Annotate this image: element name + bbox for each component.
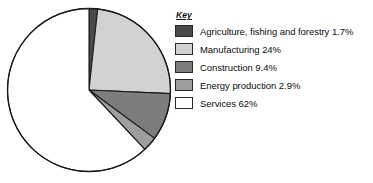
- legend-item-label: Construction 9.4%: [200, 62, 277, 73]
- white-swatch-icon: [175, 97, 193, 109]
- pie-chart-graphic: [0, 0, 186, 183]
- legend-item-manufacturing: Manufacturing 24%: [175, 40, 371, 58]
- legend-item-label: Services 62%: [200, 98, 257, 109]
- pie-slice: [89, 9, 170, 94]
- legend-item-label: Energy production 2.9%: [200, 80, 300, 91]
- legend-item-services: Services 62%: [175, 94, 371, 112]
- legend-item-agriculture: Agriculture, fishing and forestry 1.7%: [175, 22, 371, 40]
- legend-item-label: Agriculture, fishing and forestry 1.7%: [200, 26, 353, 37]
- pie-svg: [0, 0, 186, 183]
- legend-item-label: Manufacturing 24%: [200, 44, 281, 55]
- legend-item-energy-production: Energy production 2.9%: [175, 76, 371, 94]
- light-gray-swatch-icon: [175, 43, 193, 55]
- medium-dark-gray-swatch-icon: [175, 61, 193, 73]
- legend-title: Key: [176, 10, 371, 20]
- pie-slices: [7, 8, 170, 171]
- medium-gray-swatch-icon: [175, 79, 193, 91]
- legend-item-construction: Construction 9.4%: [175, 58, 371, 76]
- pie-chart-figure: Key Agriculture, fishing and forestry 1.…: [0, 0, 373, 183]
- dark-gray-swatch-icon: [175, 25, 193, 37]
- chart-legend: Key Agriculture, fishing and forestry 1.…: [175, 10, 371, 112]
